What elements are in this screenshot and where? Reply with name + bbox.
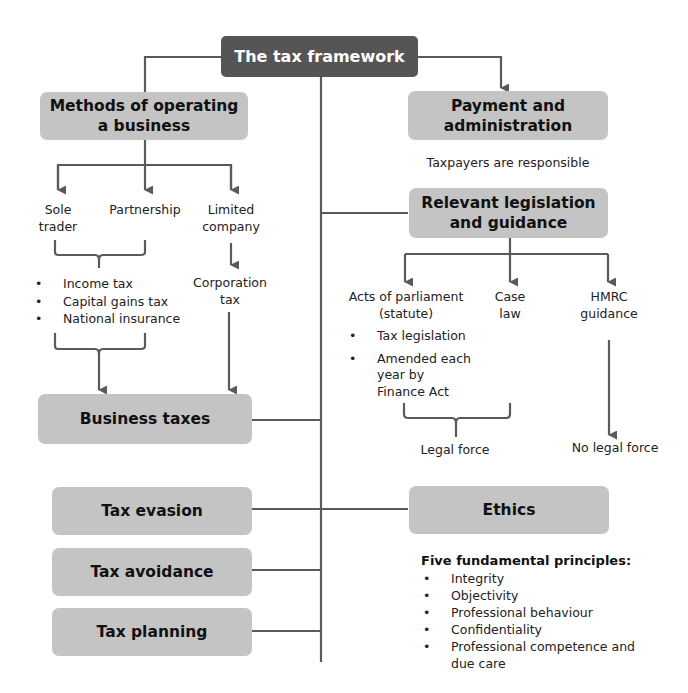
list-item: Professional competence and due care <box>421 638 635 672</box>
source-line: law <box>480 305 540 322</box>
individual-taxes-list: Income tax Capital gains tax National in… <box>33 275 180 328</box>
source-acts-of-parliament: Acts of parliament (statute) <box>348 288 464 322</box>
title-text: The tax framework <box>234 47 405 67</box>
payment-line-2: administration <box>444 116 573 136</box>
tax-avoidance-node: Tax avoidance <box>52 548 252 596</box>
methods-line-2: a business <box>98 116 191 136</box>
source-line: Acts of parliament <box>348 288 464 305</box>
entity-line: Partnership <box>105 201 185 218</box>
statute-points-list: Tax legislation Amended each year by Fin… <box>347 328 471 400</box>
ethics-text: Ethics <box>483 500 536 520</box>
entity-sole-trader: Sole trader <box>28 201 88 235</box>
tax-framework-title-node: The tax framework <box>221 36 418 77</box>
corporation-line: Corporation <box>190 274 270 291</box>
principles-heading: Five fundamental principles: <box>421 553 631 568</box>
tax-planning-text: Tax planning <box>97 622 208 642</box>
entity-line: company <box>196 218 266 235</box>
list-item: Income tax <box>33 275 180 293</box>
tax-avoidance-text: Tax avoidance <box>90 562 213 582</box>
tax-planning-node: Tax planning <box>52 608 252 656</box>
tax-evasion-text: Tax evasion <box>101 501 203 521</box>
source-line: (statute) <box>348 305 464 322</box>
list-item: Capital gains tax <box>33 293 180 311</box>
relevant-legislation-node: Relevant legislation and guidance <box>409 188 608 238</box>
business-taxes-node: Business taxes <box>38 394 252 444</box>
corporation-line: tax <box>190 291 270 308</box>
no-legal-force-label: No legal force <box>560 439 670 456</box>
list-item: Objectivity <box>421 587 635 604</box>
statute-line: Amended each <box>377 351 471 368</box>
entity-line: Limited <box>196 201 266 218</box>
source-line: HMRC <box>570 288 648 305</box>
payment-note: Taxpayers are responsible <box>408 154 608 171</box>
legislation-line-2: and guidance <box>450 213 568 233</box>
source-case-law: Case law <box>480 288 540 322</box>
entity-limited-company: Limited company <box>196 201 266 235</box>
source-line: guidance <box>570 305 648 322</box>
corporation-tax-label: Corporation tax <box>190 274 270 308</box>
principle-line: due care <box>451 655 635 672</box>
entity-partnership: Partnership <box>105 201 185 218</box>
methods-line-1: Methods of operating <box>50 96 239 116</box>
statute-line: year by <box>377 367 471 384</box>
source-line: Case <box>480 288 540 305</box>
payment-line-1: Payment and <box>451 96 565 116</box>
principles-list: Integrity Objectivity Professional behav… <box>421 570 635 672</box>
ethics-node: Ethics <box>409 486 609 534</box>
legal-force-label: Legal force <box>400 441 510 458</box>
tax-evasion-node: Tax evasion <box>52 487 252 535</box>
entity-line: Sole <box>28 201 88 218</box>
list-item: Tax legislation <box>347 328 471 345</box>
list-item: National insurance <box>33 310 180 328</box>
principle-line: Professional competence and <box>451 638 635 655</box>
payment-administration-node: Payment and administration <box>408 91 608 140</box>
list-item: Integrity <box>421 570 635 587</box>
list-item: Amended each year by Finance Act <box>347 351 471 401</box>
list-item: Professional behaviour <box>421 604 635 621</box>
statute-line: Finance Act <box>377 384 471 401</box>
legislation-line-1: Relevant legislation <box>421 193 595 213</box>
list-item: Confidentiality <box>421 621 635 638</box>
entity-line: trader <box>28 218 88 235</box>
source-hmrc-guidance: HMRC guidance <box>570 288 648 322</box>
methods-of-operating-node: Methods of operating a business <box>40 92 248 140</box>
business-taxes-text: Business taxes <box>80 409 210 429</box>
